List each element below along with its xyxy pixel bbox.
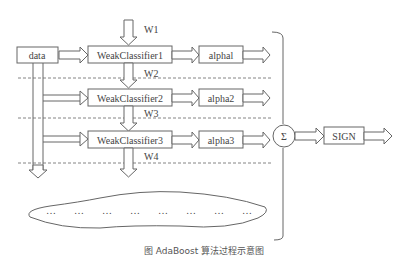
data-label: data bbox=[29, 50, 46, 61]
branch-2-arrowhead bbox=[80, 91, 88, 105]
w3-label: W3 bbox=[144, 108, 158, 119]
alpha3-out-arrow bbox=[243, 132, 270, 148]
ellipsis-2: … bbox=[74, 205, 84, 216]
sum-symbol: Σ bbox=[281, 131, 287, 142]
weak-classifier-1-label: WeakClassifier1 bbox=[97, 50, 163, 61]
w4-label: W4 bbox=[144, 151, 158, 162]
classifier3-to-alpha3-arrow bbox=[172, 132, 199, 148]
alpha3-label: alpha3 bbox=[208, 135, 235, 146]
ellipsis-6: … bbox=[186, 205, 196, 216]
output-arrow bbox=[364, 128, 392, 144]
classifier1-to-alpha1-arrow bbox=[172, 47, 199, 63]
sign-label: SIGN bbox=[332, 131, 355, 142]
alpha1-out-arrow bbox=[243, 47, 270, 63]
sum-to-sign-arrow bbox=[295, 128, 324, 144]
w1-arrow bbox=[120, 20, 137, 45]
classifier2-to-alpha2-arrow bbox=[172, 90, 199, 106]
continuation-cloud bbox=[29, 192, 267, 228]
ellipsis-7: … bbox=[214, 205, 224, 216]
branch-3-arrowhead bbox=[80, 132, 88, 146]
bracket-bottom bbox=[274, 148, 283, 240]
alpha1-label: alphal bbox=[209, 50, 234, 61]
ellipsis-8: … bbox=[242, 205, 252, 216]
adaboost-diagram: data W1 WeakClassifier1 W2 WeakClassifie… bbox=[0, 0, 408, 256]
weak-classifier-3-label: WeakClassifier3 bbox=[97, 135, 163, 146]
figure-caption: 图 AdaBoost 算法过程示意图 bbox=[144, 245, 264, 256]
ellipsis-5: … bbox=[158, 205, 168, 216]
data-to-classifier1-arrow bbox=[59, 47, 88, 63]
ellipsis-1: … bbox=[46, 205, 56, 216]
w1-label: W1 bbox=[144, 24, 158, 35]
ellipsis-4: … bbox=[130, 205, 140, 216]
data-down-arrow bbox=[29, 165, 47, 178]
ellipsis-3: … bbox=[102, 205, 112, 216]
w3-arrow bbox=[120, 106, 137, 131]
alpha2-label: alpha2 bbox=[208, 93, 235, 104]
w2-arrow bbox=[120, 63, 137, 88]
w2-label: W2 bbox=[144, 68, 158, 79]
w4-arrow bbox=[120, 148, 137, 177]
weak-classifier-2-label: WeakClassifier2 bbox=[97, 93, 163, 104]
alpha2-out-arrow bbox=[243, 90, 270, 106]
bracket-top bbox=[272, 32, 283, 124]
